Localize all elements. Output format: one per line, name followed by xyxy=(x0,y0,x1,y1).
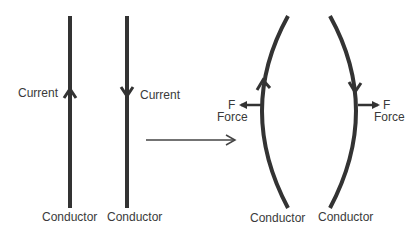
diagram-graphics xyxy=(0,0,418,235)
conductor-label: Conductor xyxy=(250,212,305,225)
current-label: Current xyxy=(18,87,58,100)
conductor-label: Conductor xyxy=(107,211,162,224)
curved-conductor-2 xyxy=(330,16,356,208)
force-label: Force xyxy=(374,111,405,124)
diagram-canvas: Current Current Conductor Conductor F Fo… xyxy=(0,0,418,235)
force-label: Force xyxy=(217,111,248,124)
transition-arrow-icon xyxy=(146,135,235,145)
curved-conductor-1 xyxy=(262,16,288,208)
conductor-label: Conductor xyxy=(42,211,97,224)
current-label: Current xyxy=(140,89,180,102)
conductor-label: Conductor xyxy=(318,211,373,224)
